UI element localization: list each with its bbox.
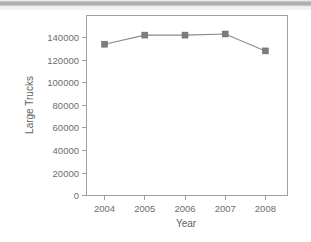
data-point-2007[interactable] xyxy=(222,31,228,37)
series-markers-large-trucks xyxy=(102,31,269,54)
y-axis-tick-labels: 0 20000 40000 60000 80000 100000 120000 … xyxy=(47,32,79,201)
x-tick-label-2004: 2004 xyxy=(94,203,115,214)
plot-frame xyxy=(87,16,288,196)
x-axis-ticks xyxy=(105,196,266,201)
y-tick-label-40000: 40000 xyxy=(53,145,79,156)
data-point-2006[interactable] xyxy=(182,32,188,38)
data-point-2008[interactable] xyxy=(262,48,268,54)
data-point-2004[interactable] xyxy=(102,41,108,47)
chart-canvas: 0 20000 40000 60000 80000 100000 120000 … xyxy=(0,0,311,242)
y-tick-label-120000: 120000 xyxy=(47,55,79,66)
y-tick-label-60000: 60000 xyxy=(53,122,79,133)
line-chart-figure: 0 20000 40000 60000 80000 100000 120000 … xyxy=(0,0,311,242)
y-axis-title: Large Trucks xyxy=(24,76,35,134)
y-tick-label-20000: 20000 xyxy=(53,168,79,179)
y-tick-label-140000: 140000 xyxy=(47,32,79,43)
x-tick-label-2005: 2005 xyxy=(134,203,155,214)
y-tick-label-100000: 100000 xyxy=(47,77,79,88)
x-axis-title: Year xyxy=(176,218,197,229)
x-tick-label-2008: 2008 xyxy=(255,203,276,214)
y-tick-label-0: 0 xyxy=(74,190,79,201)
x-axis-tick-labels: 2004 2005 2006 2007 2008 xyxy=(94,203,276,214)
data-point-2005[interactable] xyxy=(142,32,148,38)
x-tick-label-2007: 2007 xyxy=(215,203,236,214)
y-tick-label-80000: 80000 xyxy=(53,100,79,111)
x-tick-label-2006: 2006 xyxy=(174,203,195,214)
y-axis-ticks xyxy=(82,38,87,196)
